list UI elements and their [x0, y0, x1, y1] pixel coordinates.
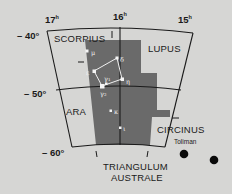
star-epsilon	[93, 70, 97, 74]
constellation-scorpius: SCORPIUS	[54, 33, 105, 44]
star-gamma2	[100, 84, 105, 89]
star-label-mu: μ	[91, 49, 95, 57]
dec-label-40: – 40°	[17, 30, 39, 41]
constellation-circinus: CIRCINUS	[157, 124, 205, 135]
star-mu	[86, 50, 89, 53]
star-label-gamma2: γ₂	[100, 90, 107, 98]
star-chart: μ δ ε γ₁ η γ₂ κ ι 17h 16h 15h – 40° – 50…	[0, 0, 232, 194]
star-label-kappa: κ	[114, 108, 118, 116]
tick	[96, 151, 97, 157]
ra-label-17h: 17h	[45, 14, 60, 25]
star-label-gamma1: γ₁	[104, 75, 111, 83]
star-label-iota: ι	[123, 125, 126, 133]
constellation-triangulum-australe-2: AUSTRALE	[111, 172, 163, 183]
constellation-lupus: LUPUS	[148, 43, 181, 54]
star-eta	[121, 78, 125, 82]
star-toliman-b	[210, 156, 219, 165]
star-iota	[119, 127, 122, 130]
ra-label-16h: 16h	[113, 11, 128, 22]
star-label-eta: η	[126, 78, 130, 86]
star-label-toliman: Toliman	[174, 138, 197, 145]
ra-label-15h: 15h	[178, 14, 193, 25]
tick	[147, 151, 148, 157]
star-kappa	[110, 110, 113, 113]
star-label-delta: δ	[120, 56, 124, 64]
constellation-ara: ARA	[66, 106, 87, 117]
star-toliman-a	[180, 150, 189, 159]
boundary-bottom-arc	[72, 144, 165, 147]
dec-label-50: – 50°	[24, 88, 46, 99]
constellation-triangulum-australe-1: TRIANGULUM	[103, 161, 168, 172]
dec-label-60: – 60°	[42, 147, 64, 158]
star-delta	[116, 57, 119, 60]
